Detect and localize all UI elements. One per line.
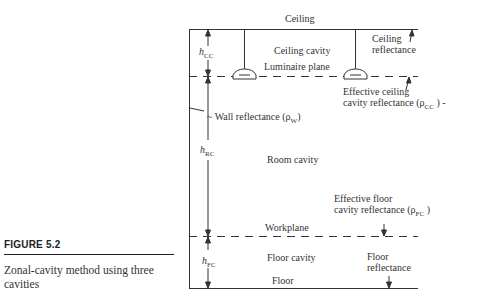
effective-ceiling-label-2: cavity reflectance (ρCC ) - <box>343 97 446 113</box>
ceiling-reflectance-label-1: Ceiling <box>372 33 401 44</box>
ceiling-reflectance-label-2: reflectance <box>372 44 416 55</box>
ceiling-cavity-label: Ceiling cavity <box>274 45 330 56</box>
h-cc-label: hCC <box>199 46 213 62</box>
floor-label: Floor <box>272 275 294 286</box>
effective-ceiling-label-1: Effective ceiling <box>343 86 409 97</box>
effective-floor-label-1: Effective floor <box>334 193 392 204</box>
ceiling-label: Ceiling <box>285 13 314 24</box>
workplane-label: Workplane <box>265 222 309 233</box>
h-fc-label: hFC <box>202 255 216 271</box>
h-rc-label: hRC <box>200 144 214 160</box>
effective-floor-label-2: cavity reflectance (ρFC ) <box>334 204 430 220</box>
luminaire-plane-label: Luminaire plane <box>264 61 330 72</box>
floor-reflectance-label-2: reflectance <box>367 262 411 273</box>
floor-cavity-label: Floor cavity <box>267 252 316 263</box>
wall-reflectance-label: ~ Wall reflectance (ρW) <box>207 111 300 127</box>
room-cavity-label: Room cavity <box>267 154 318 165</box>
floor-reflectance-label-1: Floor <box>367 251 389 262</box>
